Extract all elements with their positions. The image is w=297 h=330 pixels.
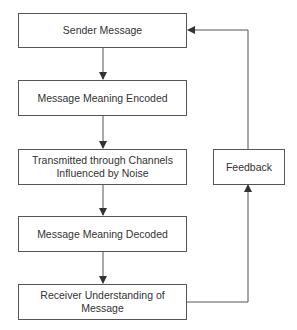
node-sender-message: Sender Message	[18, 13, 187, 48]
node-feedback: Feedback	[213, 149, 285, 185]
node-label: Message Meaning Decoded	[37, 228, 168, 241]
node-label: Message Meaning Encoded	[37, 92, 167, 105]
node-message-meaning-decoded: Message Meaning Decoded	[18, 216, 187, 252]
node-transmitted-through-channels: Transmitted through Channels Influenced …	[18, 149, 187, 185]
arrow-feedback-to-sender	[188, 30, 248, 149]
node-label: Receiver Understanding of Message	[35, 289, 170, 315]
node-label: Feedback	[226, 161, 272, 174]
node-label: Transmitted through Channels Influenced …	[23, 154, 182, 180]
node-receiver-understanding: Receiver Understanding of Message	[18, 284, 187, 320]
node-label: Sender Message	[63, 24, 142, 37]
arrow-receiver-to-feedback	[186, 185, 248, 302]
node-message-meaning-encoded: Message Meaning Encoded	[18, 80, 187, 116]
